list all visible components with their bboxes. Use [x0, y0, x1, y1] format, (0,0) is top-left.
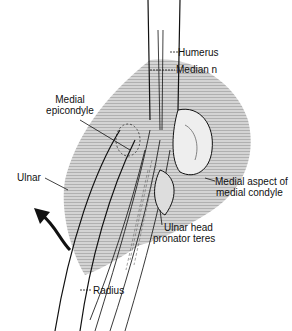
label-ulnar-head-line2: pronator teres	[153, 233, 215, 244]
label-median-nerve: Median n	[176, 64, 217, 75]
label-medial-epicondyle-line2: epicondyle	[38, 105, 102, 116]
label-ulnar: Ulnar	[17, 172, 41, 183]
anatomy-figure: Humerus Median n Medial epicondyle Ulnar…	[0, 0, 292, 331]
elbow-illustration	[0, 0, 292, 331]
label-medial-aspect-line2: medial condyle	[216, 187, 283, 198]
label-ulnar-head-line1: Ulnar head	[164, 222, 213, 233]
label-medial-epicondyle-line1: Medial	[40, 94, 100, 105]
label-humerus: Humerus	[178, 47, 219, 58]
label-radius: Radius	[93, 285, 124, 296]
label-medial-aspect-line1: Medial aspect of	[215, 176, 288, 187]
